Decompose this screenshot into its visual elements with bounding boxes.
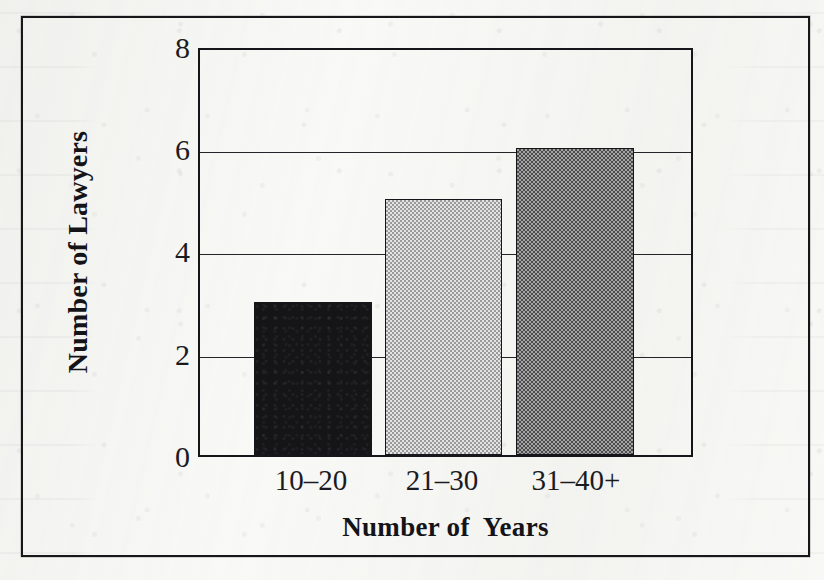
- x-tick-label-10-20: 10–20: [275, 466, 348, 495]
- plot-area: [198, 48, 693, 457]
- y-axis-tick-labels: 8 6 4 2 0: [150, 0, 190, 580]
- y-tick-label-0: 0: [150, 442, 190, 472]
- bar-31-40+: [516, 148, 634, 455]
- x-axis-title: Number of Years: [198, 512, 693, 543]
- bar-10-20: [254, 302, 372, 455]
- figure-page: 8 6 4 2 0 10–20 21–30 31–40+ Number of Y…: [0, 0, 824, 580]
- bar-21-30: [385, 199, 502, 455]
- y-tick-label-4: 4: [150, 237, 190, 267]
- x-tick-label-31-40: 31–40+: [532, 466, 621, 495]
- x-tick-label-21-30: 21–30: [406, 466, 479, 495]
- y-axis-title: Number of Lawyers: [62, 131, 94, 373]
- y-tick-label-8: 8: [150, 33, 190, 63]
- x-axis-tick-labels: 10–20 21–30 31–40+: [198, 466, 693, 506]
- y-tick-label-6: 6: [150, 135, 190, 165]
- y-tick-label-2: 2: [150, 340, 190, 370]
